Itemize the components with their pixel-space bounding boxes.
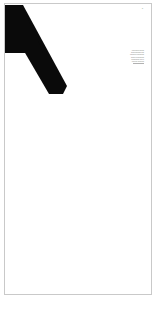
document-page: lll aaaaaaaa aaaaa aaaaaaaaaaa aaa aaaaa… bbox=[4, 3, 152, 295]
side-note-text: aaaaaaaa aaaaa aaaaaaaaaaa aaa aaaaaaa a… bbox=[130, 49, 144, 62]
canvas: lll aaaaaaaa aaaaa aaaaaaaaaaa aaa aaaaa… bbox=[0, 0, 162, 314]
side-note-rule bbox=[133, 63, 144, 64]
corner-mark: lll bbox=[99, 7, 143, 9]
side-note: aaaaaaaa aaaaa aaaaaaaaaaa aaa aaaaaaa a… bbox=[98, 47, 144, 67]
